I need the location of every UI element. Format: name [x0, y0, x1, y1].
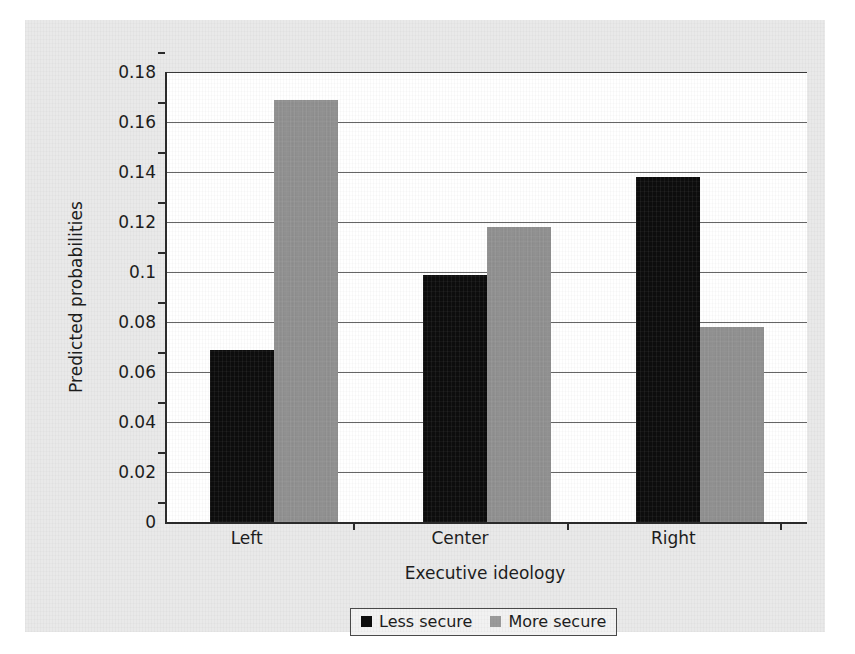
y-axis-tick-label: 0.16 — [76, 112, 156, 132]
x-axis-tick-mark — [353, 522, 355, 530]
y-axis-tick-label: 0.1 — [76, 262, 156, 282]
y-axis-tick-label: 0.08 — [76, 312, 156, 332]
black-square-swatch — [361, 616, 372, 627]
y-axis-tick-label: 0.04 — [76, 412, 156, 432]
legend-item-more-secure: More secure — [490, 612, 606, 631]
y-axis-tick-label: 0.02 — [76, 462, 156, 482]
y-axis-tick-mark — [158, 252, 165, 254]
y-axis-tick-label: 0.18 — [76, 62, 156, 82]
gray-square-swatch — [490, 616, 501, 627]
y-axis-tick-label: 0.06 — [76, 362, 156, 382]
bar-center-more-secure — [487, 227, 551, 522]
legend-label: More secure — [508, 612, 606, 631]
y-axis-tick-mark — [158, 452, 165, 454]
bar-right-less-secure — [636, 177, 700, 522]
y-axis-tick-labels: 0.180.160.140.120.10.080.060.040.020 — [70, 72, 156, 522]
bar-right-more-secure — [700, 327, 764, 522]
legend-item-less-secure: Less secure — [361, 612, 472, 631]
y-axis-tick-mark — [158, 302, 165, 304]
chart-legend: Less secureMore secure — [350, 608, 617, 636]
y-axis-tick-label: 0 — [76, 512, 156, 532]
x-axis-title: Executive ideology — [165, 563, 805, 583]
y-axis-tick-mark — [158, 52, 165, 54]
x-axis-tick-mark — [567, 522, 569, 530]
y-axis-tick-label: 0.12 — [76, 212, 156, 232]
bar-left-more-secure — [274, 100, 338, 523]
figure-panel: Predicted probabilities 0.180.160.140.12… — [25, 20, 825, 632]
y-axis-tick-mark — [158, 502, 165, 504]
x-axis-tick-label-center: Center — [370, 528, 550, 548]
legend-label: Less secure — [379, 612, 472, 631]
y-axis-tick-mark — [158, 152, 165, 154]
y-axis-tick-label: 0.14 — [76, 162, 156, 182]
y-axis-tick-mark — [158, 202, 165, 204]
gridline — [167, 172, 807, 173]
y-axis-tick-mark — [158, 102, 165, 104]
gridline — [167, 222, 807, 223]
gridline — [167, 72, 807, 73]
x-axis-tick-label-left: Left — [157, 528, 337, 548]
bar-center-less-secure — [423, 275, 487, 523]
bar-left-less-secure — [210, 350, 274, 523]
plot-area — [165, 72, 807, 524]
y-axis-tick-mark — [158, 352, 165, 354]
x-axis-tick-label-right: Right — [583, 528, 763, 548]
x-axis-tick-mark — [780, 522, 782, 530]
gridline — [167, 122, 807, 123]
y-axis-tick-mark — [158, 402, 165, 404]
